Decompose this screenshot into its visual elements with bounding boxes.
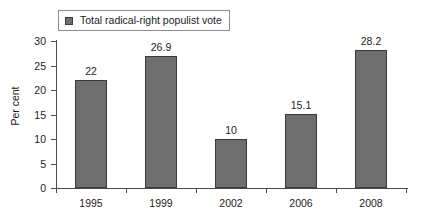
legend-series-label: Total radical-right populist vote (80, 15, 222, 26)
x-axis-tick (196, 188, 197, 193)
bar-value-label: 28.2 (346, 36, 396, 47)
x-axis-tick-label: 1999 (136, 198, 186, 209)
y-axis-tick-label: 30 (34, 36, 46, 47)
x-axis-tick (336, 188, 337, 193)
x-axis-tick (56, 188, 57, 193)
bar (285, 114, 317, 188)
x-axis-tick (126, 188, 127, 193)
y-axis-tick-label: 5 (40, 159, 46, 170)
y-axis-title: Per cent (9, 76, 21, 136)
x-axis-tick-label: 2002 (206, 198, 256, 209)
x-axis-tick (266, 188, 267, 193)
x-axis-tick-label: 2008 (346, 198, 396, 209)
x-axis-line (56, 188, 408, 189)
bar (75, 80, 107, 188)
x-axis-tick (406, 188, 407, 193)
bar (215, 139, 247, 188)
y-axis-tick-label: 10 (34, 134, 46, 145)
bar-value-label: 10 (206, 125, 256, 136)
chart-legend: Total radical-right populist vote (58, 10, 230, 31)
bar-value-label: 26.9 (136, 42, 186, 53)
y-axis-tick-label: 0 (40, 183, 46, 194)
y-axis-tick-label: 20 (34, 85, 46, 96)
bar-value-label: 15.1 (276, 100, 326, 111)
y-axis-tick-label: 25 (34, 61, 46, 72)
y-axis-tick-label: 15 (34, 110, 46, 121)
x-axis-tick-label: 2006 (276, 198, 326, 209)
bar-value-label: 22 (66, 66, 116, 77)
x-axis-tick-label: 1995 (66, 198, 116, 209)
bar-chart-figure: Total radical-right populist vote Per ce… (0, 0, 425, 224)
legend-color-swatch-icon (65, 17, 73, 25)
bar (355, 50, 387, 188)
bar (145, 56, 177, 188)
plot-area (56, 41, 406, 188)
